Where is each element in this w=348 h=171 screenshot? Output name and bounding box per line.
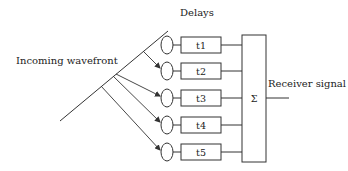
ray-arrow-5 — [101, 86, 160, 150]
sensor-row-5: t5 — [161, 143, 242, 161]
sigma-icon: Σ — [251, 93, 258, 104]
delays-label: Delays — [180, 7, 214, 18]
sensor-icon — [161, 62, 173, 80]
ray-arrow-4 — [113, 76, 160, 122]
delay-and-sum-diagram: Delays Incoming wavefront Receiver signa… — [0, 0, 348, 171]
sensor-row-1: t1 — [161, 36, 242, 54]
wavefront-line — [60, 31, 168, 121]
receiver-signal-label: Receiver signal — [268, 78, 346, 89]
sensor-row-4: t4 — [161, 116, 242, 134]
sensor-row-3: t3 — [161, 89, 242, 107]
delay-label: t2 — [196, 66, 206, 77]
ray-arrow-2 — [143, 51, 160, 68]
delay-label: t5 — [196, 147, 206, 158]
incoming-wavefront-label: Incoming wavefront — [16, 55, 118, 66]
delay-label: t1 — [196, 40, 206, 51]
delay-label: t3 — [196, 93, 206, 104]
sensor-icon — [161, 116, 173, 134]
delay-label: t4 — [196, 120, 206, 131]
sensor-icon — [161, 36, 173, 54]
sensor-icon — [161, 89, 173, 107]
sensor-icon — [161, 143, 173, 161]
sensor-row-2: t2 — [161, 62, 242, 80]
